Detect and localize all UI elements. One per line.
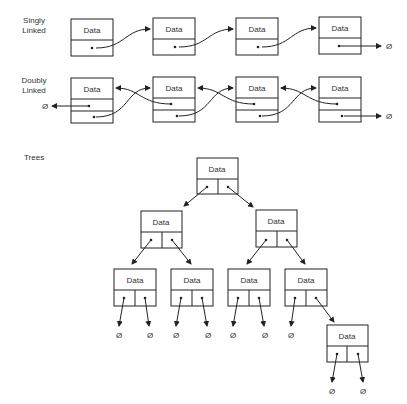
tree-null-arrow — [358, 354, 363, 382]
tree-null-arrow — [145, 298, 149, 326]
node-data-label: Data — [84, 85, 101, 94]
tree-null-arrow — [119, 298, 124, 326]
tree-node-lr — [171, 269, 213, 306]
singly-node-4 — [319, 17, 361, 54]
null-symbol: Ø — [42, 102, 48, 111]
tree-null-arrow — [332, 354, 337, 382]
node-data-label: Data — [127, 276, 144, 285]
node-data-label: Data — [249, 25, 266, 34]
null-symbol: Ø — [386, 112, 392, 121]
doubly-prev-arrow — [198, 88, 254, 104]
tree-edge-arrow — [287, 240, 305, 264]
tree-edge-arrow — [228, 187, 253, 207]
data-structures-diagram: Data Data Data Data Data Data Data Data … — [0, 0, 407, 404]
tree-edge-arrow — [184, 187, 207, 206]
doubly-next-arrow — [96, 88, 150, 117]
null-symbol: Ø — [329, 387, 335, 396]
node-data-label: Data — [332, 24, 349, 33]
null-symbol: Ø — [116, 331, 122, 340]
singly-node-1 — [71, 19, 113, 56]
node-data-label: Data — [339, 332, 356, 341]
tree-node-rrr — [327, 325, 368, 362]
null-symbol: Ø — [230, 331, 236, 340]
node-data-label: Data — [166, 84, 183, 93]
tree-null-arrow — [233, 298, 238, 326]
tree-node-r — [256, 210, 297, 247]
node-data-label: Data — [209, 165, 226, 174]
tree-null-arrow — [291, 298, 295, 326]
tree-node-rr — [285, 269, 327, 306]
tree-node-ll — [114, 269, 156, 306]
node-data-label: Data — [153, 218, 170, 227]
tree-node-rl — [228, 269, 270, 306]
doubly-prev-arrow — [281, 88, 337, 104]
singly-link-arrow — [179, 29, 233, 47]
tree-null-arrow — [202, 298, 207, 326]
node-data-label: Data — [298, 276, 315, 285]
doubly-next-arrow — [262, 88, 316, 116]
node-data-label: Data — [241, 276, 258, 285]
tree-node-l — [141, 211, 182, 248]
node-data-label: Data — [332, 84, 349, 93]
tree-edge-arrow — [316, 298, 334, 322]
null-symbol: Ø — [173, 331, 179, 340]
tree-null-arrow — [176, 298, 181, 326]
null-symbol: Ø — [386, 42, 392, 51]
node-data-label: Data — [84, 26, 101, 35]
null-symbol: Ø — [205, 331, 211, 340]
null-symbol: Ø — [147, 331, 153, 340]
node-data-label: Data — [249, 84, 266, 93]
singly-link-arrow — [262, 28, 316, 47]
singly-link-arrow — [96, 29, 150, 48]
tree-node-root — [197, 158, 238, 194]
singly-node-3 — [236, 18, 278, 55]
singly-node-2 — [153, 18, 195, 55]
null-symbol: Ø — [288, 331, 294, 340]
node-data-label: Data — [166, 25, 183, 34]
doubly-next-arrow — [179, 88, 233, 116]
tree-null-arrow — [259, 298, 264, 326]
doubly-prev-arrow — [116, 88, 171, 104]
null-symbol: Ø — [262, 331, 268, 340]
node-data-label: Data — [268, 217, 285, 226]
node-data-label: Data — [184, 276, 201, 285]
null-symbol: Ø — [360, 387, 366, 396]
